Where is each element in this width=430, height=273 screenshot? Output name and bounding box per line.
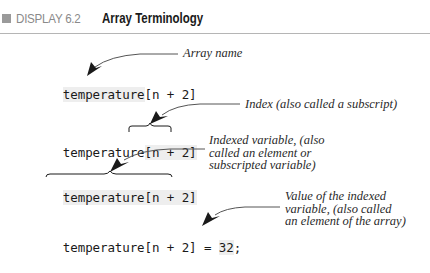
arrow-index-icon <box>150 104 240 124</box>
annotation-overlay <box>0 0 430 273</box>
arrow-array-name-icon <box>87 54 178 76</box>
arrow-value-icon <box>202 207 280 226</box>
brace-indexed-variable-icon <box>46 171 172 177</box>
arrow-indexed-variable-icon <box>110 149 205 172</box>
brace-index-icon <box>129 123 171 132</box>
